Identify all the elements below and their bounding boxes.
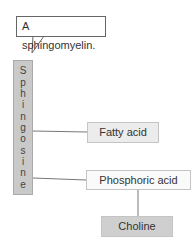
backbone-letter: g — [14, 122, 32, 133]
backbone-letter: o — [14, 133, 32, 144]
backbone-letter: s — [14, 145, 32, 156]
sphingosine-backbone: S p h i n g o s i n e — [13, 60, 33, 195]
backbone-letter: p — [14, 77, 32, 88]
fatty-acid-node: Fatty acid — [87, 122, 159, 143]
choline-node: Choline — [101, 216, 173, 237]
phosphoric-acid-node: Phosphoric acid — [86, 170, 191, 190]
backbone-letter: e — [14, 179, 32, 190]
backbone-letter: h — [14, 88, 32, 99]
backbone-letter: n — [14, 167, 32, 178]
callout-label: A sphingomyelin. — [16, 16, 106, 37]
backbone-letter: i — [14, 156, 32, 167]
backbone-letter: S — [14, 65, 32, 76]
backbone-letter: i — [14, 99, 32, 110]
backbone-letter: n — [14, 111, 32, 122]
